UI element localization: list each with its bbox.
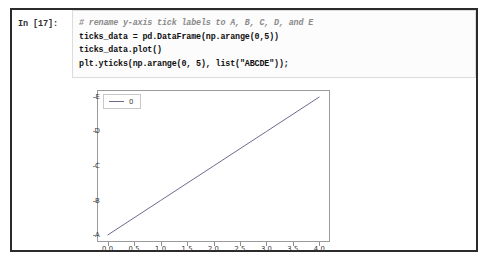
y-tick-label-C: C <box>80 162 100 170</box>
code-line-2: ticks_data.plot() <box>79 44 469 58</box>
x-tick-label-1.5: 1.5 <box>175 245 199 253</box>
legend-label-0: 0 <box>129 98 133 106</box>
cell-output-area: 0 ABCDE 0.00.51.01.52.02.53.03.54.0 <box>12 80 476 250</box>
code-line-1: ticks_data = pd.DataFrame(np.arange(0,5)… <box>79 31 469 45</box>
x-tick-label-4.0: 4.0 <box>307 245 331 253</box>
y-tick-mark-E <box>93 97 97 98</box>
x-tick-mark-0.0 <box>108 242 109 246</box>
y-tick-label-E: E <box>80 93 100 101</box>
x-tick-mark-3.5 <box>293 242 294 246</box>
y-tick-mark-C <box>93 166 97 167</box>
y-tick-label-A: A <box>80 231 100 239</box>
x-tick-label-0.5: 0.5 <box>122 245 146 253</box>
x-tick-mark-0.5 <box>134 242 135 246</box>
plot-line-series <box>97 90 330 242</box>
plot-legend: 0 <box>103 94 141 109</box>
y-tick-mark-A <box>93 235 97 236</box>
x-tick-label-0.0: 0.0 <box>96 245 120 253</box>
code-input-area[interactable]: # rename y-axis tick labels to A, B, C, … <box>72 10 476 78</box>
notebook-cell-frame: In [17]: # rename y-axis tick labels to … <box>10 8 478 252</box>
x-tick-mark-2.0 <box>214 242 215 246</box>
line-series-0 <box>108 97 320 235</box>
code-line-3: plt.yticks(np.arange(0, 5), list("ABCDE"… <box>79 58 469 72</box>
matplotlib-figure: 0 ABCDE 0.00.51.01.52.02.53.03.54.0 <box>72 82 362 248</box>
x-tick-mark-4.0 <box>319 242 320 246</box>
x-tick-mark-1.5 <box>187 242 188 246</box>
x-tick-mark-2.5 <box>240 242 241 246</box>
x-tick-label-1.0: 1.0 <box>149 245 173 253</box>
y-tick-label-B: B <box>80 197 100 205</box>
code-cell[interactable]: In [17]: # rename y-axis tick labels to … <box>12 10 476 80</box>
y-tick-mark-D <box>93 131 97 132</box>
x-tick-label-3.0: 3.0 <box>254 245 278 253</box>
x-tick-label-2.5: 2.5 <box>228 245 252 253</box>
input-prompt-label: In [17]: <box>12 10 72 29</box>
x-tick-mark-3.0 <box>266 242 267 246</box>
y-tick-label-D: D <box>80 127 100 135</box>
y-tick-mark-B <box>93 201 97 202</box>
x-tick-mark-1.0 <box>161 242 162 246</box>
legend-line-swatch <box>109 101 124 102</box>
x-tick-label-2.0: 2.0 <box>202 245 226 253</box>
code-line-comment: # rename y-axis tick labels to A, B, C, … <box>79 17 469 31</box>
x-tick-label-3.5: 3.5 <box>281 245 305 253</box>
